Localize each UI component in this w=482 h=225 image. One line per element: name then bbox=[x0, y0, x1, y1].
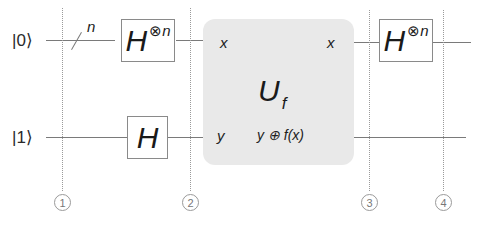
top-wire-right-a bbox=[354, 42, 379, 43]
hadamard-gate-ancilla: H bbox=[127, 116, 168, 159]
input-ket-one: |1⟩ bbox=[12, 127, 33, 148]
input-ket-zero: |0⟩ bbox=[12, 30, 33, 51]
gate-symbol: H bbox=[137, 123, 159, 153]
bus-width-label: n bbox=[87, 18, 95, 35]
oracle-input-x: x bbox=[220, 34, 228, 51]
gate-superscript: ⊗n bbox=[407, 22, 428, 40]
step-marker-3: 3 bbox=[361, 194, 378, 211]
step-marker-4: 4 bbox=[435, 194, 452, 211]
step-line-4 bbox=[443, 10, 444, 191]
bottom-wire-right bbox=[354, 137, 466, 138]
step-line-3 bbox=[369, 10, 370, 191]
oracle-input-y: y bbox=[217, 127, 225, 144]
step-marker-2: 2 bbox=[182, 194, 199, 211]
oracle-output-y-xor-fx: y ⊕ f(x) bbox=[257, 127, 304, 143]
hadamard-n-gate-output: H⊗n bbox=[379, 19, 433, 62]
gate-symbol: H bbox=[125, 26, 147, 56]
top-wire-right-b bbox=[433, 42, 471, 43]
bottom-wire-left bbox=[46, 137, 127, 138]
gate-symbol: H bbox=[383, 26, 405, 56]
gate-superscript: ⊗n bbox=[149, 22, 170, 40]
step-marker-1: 1 bbox=[54, 194, 71, 211]
step-line-1 bbox=[62, 8, 63, 191]
hadamard-n-gate-input: H⊗n bbox=[121, 19, 175, 62]
oracle-name: Uf bbox=[258, 74, 286, 108]
top-wire-left bbox=[46, 40, 115, 41]
oracle-output-x: x bbox=[327, 34, 335, 51]
bus-slash-icon bbox=[71, 32, 82, 50]
bottom-wire-mid bbox=[168, 137, 204, 138]
oracle-uf-box: x x Uf y y ⊕ f(x) bbox=[203, 19, 354, 165]
step-line-2 bbox=[190, 8, 191, 191]
